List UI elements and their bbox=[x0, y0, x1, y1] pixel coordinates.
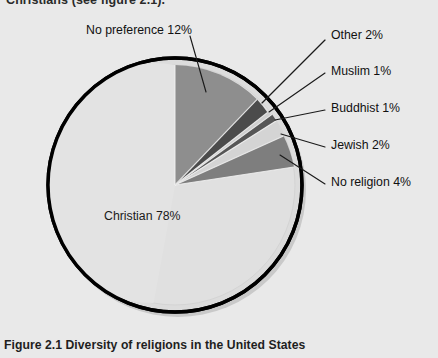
label-buddhist: Buddhist 1% bbox=[331, 102, 400, 116]
label-no-religion: No religion 4% bbox=[331, 176, 411, 190]
label-christian: Christian 78% bbox=[104, 209, 181, 223]
leader-line-other bbox=[262, 40, 325, 103]
label-no-preference: No preference 12% bbox=[86, 24, 192, 38]
figure-container: Christians (see figure 2.1). bbox=[0, 0, 438, 358]
label-muslim: Muslim 1% bbox=[331, 65, 391, 79]
leader-line-muslim bbox=[269, 73, 325, 112]
slice-christian bbox=[34, 63, 175, 303]
label-jewish: Jewish 2% bbox=[331, 139, 390, 153]
label-other: Other 2% bbox=[331, 29, 383, 43]
figure-caption: Figure 2.1 Diversity of religions in the… bbox=[4, 338, 305, 352]
